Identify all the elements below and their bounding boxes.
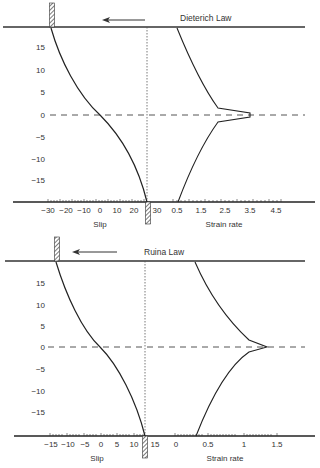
hatched-block-icon: [146, 202, 151, 224]
hatched-block-icon: [50, 3, 55, 27]
svg-text:0.5: 0.5: [171, 206, 183, 215]
svg-text:−15: −15: [44, 440, 58, 449]
svg-text:−10: −10: [77, 206, 91, 215]
svg-text:0: 0: [99, 440, 104, 449]
svg-text:10: 10: [36, 66, 45, 75]
svg-text:−30: −30: [41, 206, 55, 215]
svg-text:0: 0: [41, 343, 46, 352]
svg-text:−10: −10: [61, 440, 75, 449]
panel-dieterich: Dieterich Law 15 10 5 0 −5 −10 −15 −30 −…: [3, 3, 315, 229]
svg-text:5: 5: [41, 88, 46, 97]
svg-text:−15: −15: [31, 408, 45, 417]
svg-text:2.5: 2.5: [219, 206, 231, 215]
strain-axis-label: Strain rate: [207, 454, 244, 463]
left-arrow-icon: [102, 17, 145, 23]
panel-title: Dieterich Law: [180, 13, 232, 23]
svg-text:−15: −15: [31, 176, 45, 185]
svg-text:1.5: 1.5: [195, 206, 207, 215]
slip-curve: [56, 262, 145, 436]
svg-text:10: 10: [130, 440, 139, 449]
strain-tick-labels: 0 0.5 1 1.5: [174, 440, 283, 449]
strain-axis-label: Strain rate: [206, 220, 243, 229]
svg-text:−5: −5: [80, 440, 90, 449]
svg-text:−5: −5: [36, 365, 46, 374]
strain-tick-labels: 0.5 1.5 2.5 3.5 4.5: [171, 206, 282, 215]
slip-axis-label: Slip: [93, 220, 107, 229]
y-axis-labels: 15 10 5 0 −5 −10 −15: [31, 43, 45, 185]
strain-minor-ticks: [175, 433, 277, 436]
svg-text:5: 5: [41, 322, 46, 331]
svg-text:1: 1: [242, 440, 247, 449]
svg-text:−5: −5: [36, 133, 46, 142]
svg-text:20: 20: [130, 206, 139, 215]
hatched-block-icon: [55, 237, 60, 261]
svg-text:0.5: 0.5: [202, 440, 214, 449]
y-axis-labels: 15 10 5 0 −5 −10 −15: [31, 279, 45, 417]
figure: Dieterich Law 15 10 5 0 −5 −10 −15 −30 −…: [0, 0, 320, 468]
panel-title: Ruina Law: [144, 247, 185, 257]
svg-text:15: 15: [36, 43, 45, 52]
svg-text:30: 30: [153, 206, 162, 215]
left-arrow-icon: [72, 249, 117, 255]
svg-text:1.5: 1.5: [271, 440, 283, 449]
svg-text:15: 15: [36, 279, 45, 288]
svg-text:−10: −10: [31, 387, 45, 396]
svg-text:5: 5: [115, 440, 120, 449]
strain-rate-curve: [195, 262, 267, 436]
slip-axis-label: Slip: [90, 454, 104, 463]
panel-ruina: Ruina Law 15 10 5 0 −5 −10 −15 −15 −10 −…: [5, 237, 315, 463]
svg-text:−10: −10: [31, 155, 45, 164]
slip-tick-labels: −30 −20 −10 0 10 20 30: [41, 206, 162, 215]
svg-text:15: 15: [151, 440, 160, 449]
svg-text:10: 10: [113, 206, 122, 215]
svg-text:10: 10: [36, 301, 45, 310]
svg-text:−20: −20: [59, 206, 73, 215]
svg-text:0: 0: [98, 206, 103, 215]
svg-text:0: 0: [174, 440, 179, 449]
hatched-block-icon: [143, 436, 148, 458]
svg-text:3.5: 3.5: [244, 206, 256, 215]
svg-text:0: 0: [41, 111, 46, 120]
svg-text:4.5: 4.5: [270, 206, 282, 215]
